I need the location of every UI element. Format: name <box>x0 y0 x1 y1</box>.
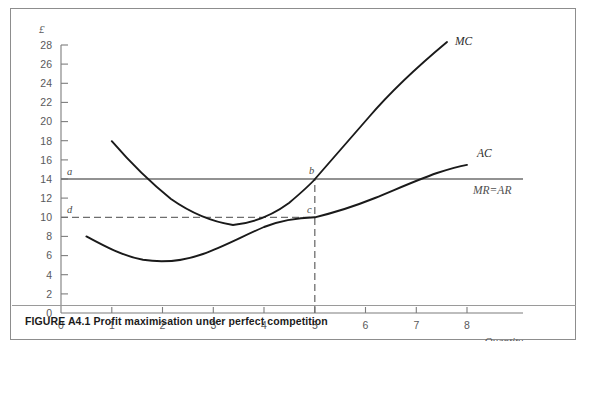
y-tick-label-8: 8 <box>46 230 52 242</box>
y-axis-title: £ <box>39 23 45 35</box>
annotation-point-d: d <box>67 204 73 215</box>
y-tick-label-6: 6 <box>46 249 52 261</box>
y-tick-label-18: 18 <box>40 135 52 147</box>
y-tick-label-20: 20 <box>40 115 52 127</box>
annotation-point-a: a <box>67 166 72 177</box>
y-tick-label-12: 12 <box>40 192 52 204</box>
y-tick-label-26: 26 <box>40 58 52 70</box>
figure-caption-number: FIGURE A4.1 <box>25 315 90 327</box>
figure-caption-text: Profit maximisation under perfect compet… <box>94 315 328 327</box>
x-tick-label-6: 6 <box>363 319 369 331</box>
y-tick-label-14: 14 <box>40 173 52 185</box>
figure-frame: 28 26 24 22 20 18 16 14 12 10 8 6 4 2 0 … <box>10 8 576 340</box>
ac-curve-label: AC <box>476 147 492 159</box>
caption-separator <box>12 305 576 306</box>
y-tick-label-22: 22 <box>40 96 52 108</box>
chart-plot-area: 28 26 24 22 20 18 16 14 12 10 8 6 4 2 0 … <box>11 9 577 341</box>
x-axis-title: Quantity <box>485 335 524 341</box>
y-tick-label-28: 28 <box>40 39 52 51</box>
mc-curve <box>112 42 447 225</box>
y-tick-label-16: 16 <box>40 154 52 166</box>
y-tick-label-2: 2 <box>46 288 52 300</box>
figure-caption: FIGURE A4.1 Profit maximisation under pe… <box>25 315 328 327</box>
x-tick-label-8: 8 <box>464 319 470 331</box>
mc-curve-label: MC <box>454 35 473 47</box>
profit-maximisation-chart: 28 26 24 22 20 18 16 14 12 10 8 6 4 2 0 … <box>11 9 577 341</box>
x-axis-ticks <box>112 307 467 313</box>
annotation-point-c: c <box>307 204 312 215</box>
y-tick-label-4: 4 <box>46 269 52 281</box>
mr-ar-curve-label: MR=AR <box>472 184 511 196</box>
annotation-point-b: b <box>309 165 314 176</box>
y-tick-label-10: 10 <box>40 211 52 223</box>
x-tick-label-7: 7 <box>413 319 419 331</box>
y-tick-label-24: 24 <box>40 77 52 89</box>
